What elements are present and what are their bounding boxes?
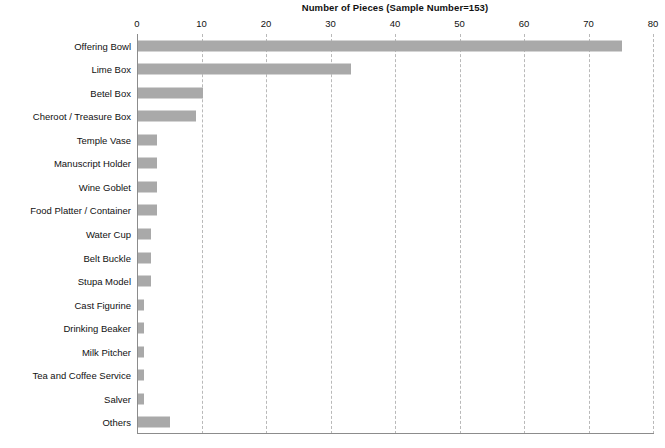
category-label: Tea and Coffee Service bbox=[32, 370, 131, 381]
bar-row: Belt Buckle bbox=[0, 246, 665, 270]
x-tick-label-50: 50 bbox=[454, 18, 465, 29]
bar-row: Drinking Beaker bbox=[0, 316, 665, 340]
bar bbox=[138, 158, 157, 169]
chart-title: Number of Pieces (Sample Number=153) bbox=[137, 2, 653, 13]
bar-row: Lime Box bbox=[0, 58, 665, 82]
category-label: Offering Bowl bbox=[74, 40, 131, 51]
bar-row: Tea and Coffee Service bbox=[0, 363, 665, 387]
category-label: Cheroot / Treasure Box bbox=[33, 111, 131, 122]
category-label: Manuscript Holder bbox=[54, 158, 131, 169]
x-tick-label-70: 70 bbox=[583, 18, 594, 29]
category-label: Wine Goblet bbox=[79, 181, 131, 192]
bar bbox=[138, 370, 144, 381]
x-tick-label-20: 20 bbox=[261, 18, 272, 29]
category-label: Betel Box bbox=[90, 87, 131, 98]
bar-row: Stupa Model bbox=[0, 269, 665, 293]
category-label: Food Platter / Container bbox=[30, 205, 131, 216]
bar-row: Salver bbox=[0, 387, 665, 411]
bar bbox=[138, 111, 196, 122]
x-tick-label-60: 60 bbox=[519, 18, 530, 29]
category-label: Lime Box bbox=[91, 64, 131, 75]
bar bbox=[138, 228, 151, 239]
bar bbox=[138, 276, 151, 287]
bar bbox=[138, 134, 157, 145]
bar bbox=[138, 205, 157, 216]
x-tick-label-40: 40 bbox=[390, 18, 401, 29]
bar bbox=[138, 252, 151, 263]
bar-chart: Number of Pieces (Sample Number=153) 010… bbox=[0, 0, 665, 448]
bar bbox=[138, 64, 351, 75]
category-label: Water Cup bbox=[86, 228, 131, 239]
bar-row: Water Cup bbox=[0, 222, 665, 246]
bar-row: Milk Pitcher bbox=[0, 340, 665, 364]
bar bbox=[138, 346, 144, 357]
bar bbox=[138, 299, 144, 310]
x-axis-tick-labels: 01020304050607080 bbox=[0, 18, 665, 32]
category-label: Cast Figurine bbox=[75, 299, 132, 310]
category-label: Drinking Beaker bbox=[63, 323, 131, 334]
bar-row: Temple Vase bbox=[0, 128, 665, 152]
x-tick-label-80: 80 bbox=[648, 18, 659, 29]
x-tick-label-0: 0 bbox=[134, 18, 139, 29]
category-label: Others bbox=[102, 417, 131, 428]
bar bbox=[138, 393, 144, 404]
category-label: Belt Buckle bbox=[83, 252, 131, 263]
bar bbox=[138, 40, 622, 51]
bar bbox=[138, 417, 170, 428]
bar bbox=[138, 87, 203, 98]
bar bbox=[138, 323, 144, 334]
bar-row: Cast Figurine bbox=[0, 293, 665, 317]
bar-rows: Offering BowlLime BoxBetel BoxCheroot / … bbox=[0, 34, 665, 434]
category-label: Temple Vase bbox=[77, 134, 131, 145]
category-label: Milk Pitcher bbox=[82, 346, 131, 357]
bar-row: Others bbox=[0, 410, 665, 434]
bar-row: Manuscript Holder bbox=[0, 152, 665, 176]
bar-row: Cheroot / Treasure Box bbox=[0, 105, 665, 129]
category-label: Salver bbox=[104, 393, 131, 404]
x-tick-label-10: 10 bbox=[196, 18, 207, 29]
bar-row: Offering Bowl bbox=[0, 34, 665, 58]
bar bbox=[138, 181, 157, 192]
bar-row: Betel Box bbox=[0, 81, 665, 105]
category-label: Stupa Model bbox=[78, 276, 131, 287]
x-tick-label-30: 30 bbox=[325, 18, 336, 29]
bar-row: Wine Goblet bbox=[0, 175, 665, 199]
bar-row: Food Platter / Container bbox=[0, 199, 665, 223]
